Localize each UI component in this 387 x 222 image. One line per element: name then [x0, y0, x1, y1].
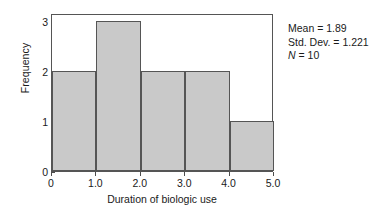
bars-layer [52, 15, 272, 171]
statistic-line: Mean = 1.89 [288, 22, 369, 36]
x-tick-label: 1.0 [77, 177, 113, 189]
histogram-bar [141, 71, 185, 171]
statistic-value: 10 [308, 49, 320, 61]
y-tick-label: 3 [32, 17, 48, 27]
x-axis-title: Duration of biologic use [51, 193, 273, 205]
x-tick-label: 2.0 [122, 177, 158, 189]
y-tick-label: 1 [32, 117, 48, 127]
statistic-value: 1.89 [326, 22, 346, 34]
x-tick-label: 4.0 [211, 177, 247, 189]
x-tick-mark [95, 172, 96, 176]
statistic-separator: = [296, 49, 308, 61]
y-tick-label: 0 [32, 167, 48, 177]
histogram-bar [185, 71, 229, 171]
statistic-separator: = [314, 22, 326, 34]
x-tick-mark [229, 172, 230, 176]
histogram-bar [96, 21, 140, 171]
x-tick-mark [273, 172, 274, 176]
histogram-bar [230, 121, 274, 171]
y-axis-title: Frequency [19, 13, 31, 123]
x-tick-label: 3.0 [166, 177, 202, 189]
statistic-separator: = [330, 36, 342, 48]
x-tick-label: 0 [33, 177, 69, 189]
x-tick-mark [51, 172, 52, 176]
x-tick-mark [184, 172, 185, 176]
histogram-bar [52, 71, 96, 171]
plot-area [51, 14, 273, 172]
statistic-line: Std. Dev. = 1.221 [288, 36, 369, 50]
statistic-value: 1.221 [342, 36, 368, 48]
statistic-label: Mean [288, 22, 314, 34]
statistics-annotation: Mean = 1.89Std. Dev. = 1.221N = 10 [288, 22, 369, 63]
x-tick-label: 5.0 [255, 177, 291, 189]
statistic-label: Std. Dev. [288, 36, 330, 48]
histogram-figure: Frequency 0123 01.02.03.04.05.0 Duration… [0, 0, 387, 222]
statistic-line: N = 10 [288, 49, 369, 63]
y-tick-label: 2 [32, 67, 48, 77]
statistic-label: N [288, 49, 296, 61]
x-tick-mark [140, 172, 141, 176]
